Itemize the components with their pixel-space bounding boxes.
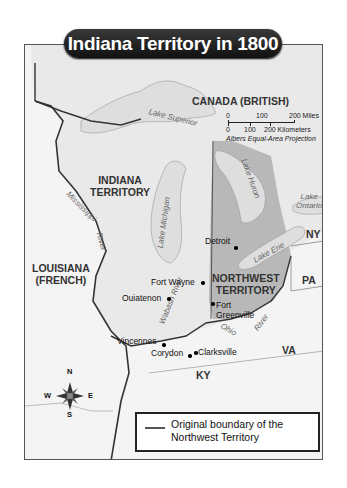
scale-bar: 0 100 200 Miles 0 100 200 Kilometers Alb… bbox=[226, 112, 326, 146]
city-corydon: Corydon bbox=[151, 348, 183, 358]
compass-s: S bbox=[67, 410, 72, 419]
scale-projection: Albers Equal-Area Projection bbox=[226, 135, 316, 142]
region-va: VA bbox=[282, 344, 296, 356]
vincennes-dot-icon bbox=[162, 343, 166, 347]
scale-km-200: 200 Kilometers bbox=[264, 126, 311, 133]
city-fort-wayne: Fort Wayne bbox=[151, 277, 195, 287]
region-ky: KY bbox=[196, 369, 211, 381]
legend-text: Original boundary of the Northwest Terri… bbox=[171, 418, 283, 444]
region-pa: PA bbox=[302, 274, 316, 286]
compass-n: N bbox=[67, 367, 72, 376]
corydon-dot-icon bbox=[188, 354, 192, 358]
city-fort-greenville-line2: Greenville bbox=[216, 310, 254, 320]
region-northwest-line2: TERRITORY bbox=[212, 284, 280, 296]
label-lake-ontario: Lake Ontario bbox=[296, 192, 322, 210]
scale-km-100: 100 bbox=[244, 126, 256, 133]
detroit-dot-icon bbox=[234, 246, 238, 250]
compass-w: W bbox=[44, 391, 51, 400]
region-ny: NY bbox=[306, 228, 321, 240]
scale-miles-100: 100 bbox=[256, 112, 268, 119]
region-indiana-line1: INDIANA bbox=[90, 174, 150, 186]
region-northwest-territory: NORTHWEST TERRITORY bbox=[212, 272, 280, 296]
region-northwest-line1: NORTHWEST bbox=[212, 272, 280, 284]
city-ouiatenon: Ouiatenon bbox=[122, 293, 161, 303]
region-indiana-territory: INDIANA TERRITORY bbox=[90, 174, 150, 198]
clarksville-dot-icon bbox=[194, 351, 198, 355]
city-vincennes: Vincennes bbox=[117, 336, 157, 346]
ouiatenon-dot-icon bbox=[167, 297, 171, 301]
legend-line2: Northwest Territory bbox=[171, 431, 283, 444]
region-louisiana: LOUISIANA (FRENCH) bbox=[32, 262, 90, 286]
map-title: Indiana Territory in 1800 bbox=[64, 29, 282, 58]
scale-miles-0: 0 bbox=[226, 112, 230, 119]
region-louisiana-line1: LOUISIANA bbox=[32, 262, 90, 274]
city-fort-greenville: Fort Greenville bbox=[216, 300, 254, 320]
compass-e: E bbox=[88, 391, 93, 400]
scale-km-0: 0 bbox=[226, 126, 230, 133]
fort-wayne-dot-icon bbox=[201, 281, 205, 285]
fort-greenville-dot-icon bbox=[211, 302, 215, 306]
label-lake-ontario-line2: Ontario bbox=[296, 201, 322, 210]
region-indiana-line2: TERRITORY bbox=[90, 186, 150, 198]
legend-line1: Original boundary of the bbox=[171, 418, 283, 431]
map-legend: Original boundary of the Northwest Terri… bbox=[135, 412, 320, 452]
city-clarksville: Clarksville bbox=[198, 347, 237, 357]
label-lake-ontario-line1: Lake bbox=[296, 192, 322, 201]
scale-miles-200: 200 Miles bbox=[289, 112, 319, 119]
region-canada: CANADA (BRITISH) bbox=[192, 95, 289, 107]
city-detroit: Detroit bbox=[205, 236, 230, 246]
region-louisiana-line2: (FRENCH) bbox=[32, 274, 90, 286]
compass-rose-icon: N S E W bbox=[40, 374, 92, 434]
city-fort-greenville-line1: Fort bbox=[216, 300, 254, 310]
scale-line bbox=[228, 122, 295, 123]
boundary-line-icon bbox=[145, 427, 165, 429]
